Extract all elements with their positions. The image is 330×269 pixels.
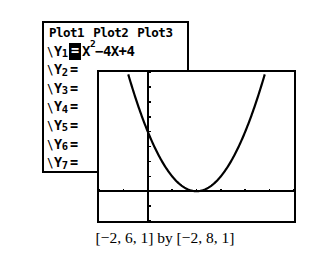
y3-slash-icon: \ <box>47 82 53 95</box>
graph-screen[interactable] <box>97 70 296 223</box>
window-range-caption: [−2, 6, 1] by [−2, 8, 1] <box>0 229 330 248</box>
y3-index: 3 <box>62 85 68 96</box>
y5-label: Y <box>54 119 62 133</box>
y6-index: 6 <box>62 141 68 152</box>
calculator-figure: Plot1 Plot2 Plot3 \ Y 1 = X2−4X+4 \ Y 2 … <box>0 0 330 269</box>
y4-slash-icon: \ <box>47 101 53 114</box>
y1-index: 1 <box>62 48 68 59</box>
y1-label: Y <box>54 45 62 59</box>
axes-group <box>99 72 294 221</box>
plot-tab-plot1[interactable]: Plot1 <box>49 27 84 40</box>
y1-expression-base: X <box>82 43 90 59</box>
y3-equals-indicator[interactable]: = <box>69 82 79 96</box>
y4-index: 4 <box>62 104 68 115</box>
y1-expression-exponent: 2 <box>90 38 95 49</box>
y1-expression[interactable]: X2−4X+4 <box>82 44 134 58</box>
y1-slash-icon: \ <box>47 45 53 58</box>
y7-label: Y <box>54 156 62 170</box>
y5-slash-icon: \ <box>47 119 53 132</box>
y5-index: 5 <box>62 122 68 133</box>
y1-equals-selected-indicator[interactable]: = <box>69 43 81 60</box>
y7-index: 7 <box>62 160 68 171</box>
y2-slash-icon: \ <box>47 63 53 76</box>
plot-tab-row: Plot1 Plot2 Plot3 <box>49 25 187 42</box>
y2-equals-indicator[interactable]: = <box>69 63 79 77</box>
plot-tab-plot2[interactable]: Plot2 <box>93 27 128 40</box>
y1-expression-rest: −4X+4 <box>95 43 134 59</box>
plot-tab-plot3[interactable]: Plot3 <box>137 27 172 40</box>
y-variable-row-y1[interactable]: \ Y 1 = X2−4X+4 <box>47 42 189 61</box>
graph-plot-area <box>99 72 294 221</box>
y7-equals-indicator[interactable]: = <box>69 156 79 170</box>
y3-label: Y <box>54 82 62 96</box>
y4-equals-indicator[interactable]: = <box>69 100 79 114</box>
y7-slash-icon: \ <box>47 156 53 169</box>
y5-equals-indicator[interactable]: = <box>69 119 79 133</box>
y2-label: Y <box>54 63 62 77</box>
y2-index: 2 <box>62 67 68 78</box>
y6-slash-icon: \ <box>47 138 53 151</box>
y4-label: Y <box>54 100 62 114</box>
y6-equals-indicator[interactable]: = <box>69 138 79 152</box>
y6-label: Y <box>54 138 62 152</box>
